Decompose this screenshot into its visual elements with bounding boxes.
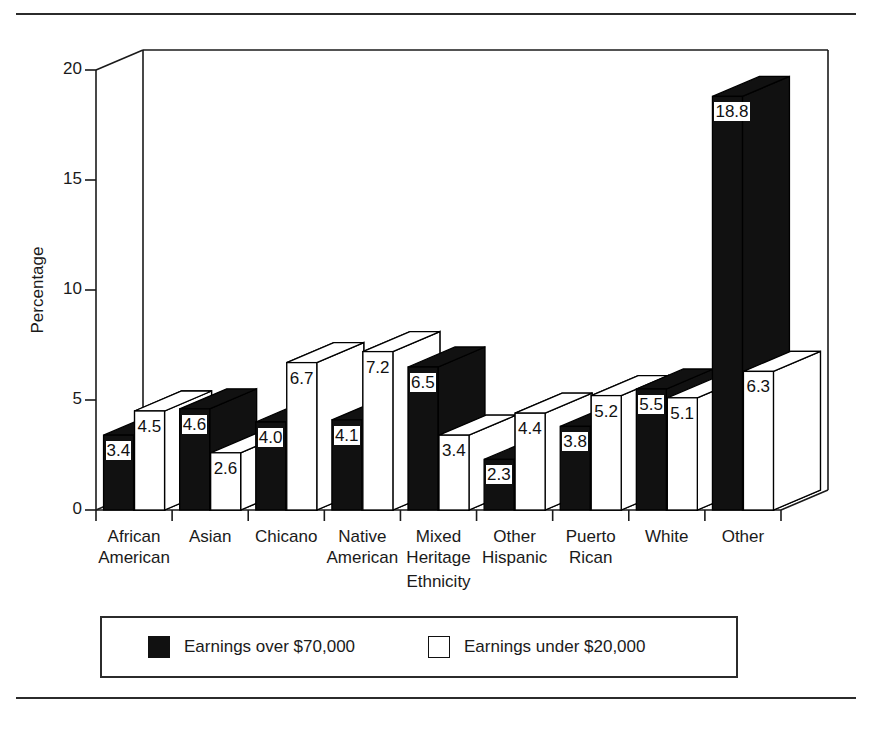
bar-value-label-s1-7: 5.1 [669, 404, 695, 423]
legend-swatch-dark-icon [148, 636, 170, 658]
bar-value-label-s0-4: 6.5 [410, 373, 436, 392]
bar-value-label-s0-6: 3.8 [562, 432, 588, 451]
bar-value-label-s0-8: 18.8 [714, 102, 749, 121]
figure-container: Percentage 05101520 African AmericanAsia… [0, 0, 872, 732]
legend-label-under: Earnings under $20,000 [464, 637, 645, 657]
bar-light-overlay-8-side [773, 351, 820, 510]
x-axis-label: Ethnicity [289, 572, 589, 592]
bar-value-label-s1-3: 7.2 [365, 358, 391, 377]
bar-value-label-s1-1: 2.6 [213, 459, 239, 478]
bar-value-label-s1-5: 4.4 [517, 419, 543, 438]
bar-value-label-s1-6: 5.2 [593, 402, 619, 421]
bar-value-label-s0-3: 4.1 [334, 426, 360, 445]
legend-entry-earnings-over: Earnings over $70,000 [148, 636, 355, 658]
axis-top-connector [96, 50, 143, 70]
bar-value-label-s0-5: 2.3 [486, 465, 512, 484]
bar-value-label-s1-4: 3.4 [441, 441, 467, 460]
y-tick-label-15: 15 [30, 169, 82, 189]
legend-swatch-light-icon [428, 636, 450, 658]
y-tick-label-20: 20 [30, 59, 82, 79]
bar-value-label-s0-7: 5.5 [638, 395, 664, 414]
bar-value-label-s0-0: 3.4 [106, 441, 132, 460]
legend-entry-earnings-under: Earnings under $20,000 [428, 636, 645, 658]
x-tick-label-8: Other [693, 526, 793, 547]
bar-dark-8-front [712, 96, 742, 510]
bar-value-label-s1-0: 4.5 [137, 417, 163, 436]
legend: Earnings over $70,000 Earnings under $20… [100, 616, 738, 678]
legend-label-over: Earnings over $70,000 [184, 637, 355, 657]
bar-value-label-s1-8: 6.3 [745, 377, 771, 396]
bar-value-label-s0-1: 4.6 [182, 415, 208, 434]
y-tick-label-5: 5 [30, 389, 82, 409]
y-tick-label-10: 10 [30, 279, 82, 299]
bar-value-label-s0-2: 4.0 [258, 428, 284, 447]
y-tick-label-0: 0 [30, 499, 82, 519]
bar-value-label-s1-2: 6.7 [289, 369, 315, 388]
